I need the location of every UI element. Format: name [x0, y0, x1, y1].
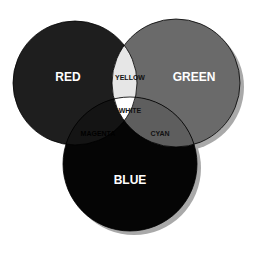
label-blue: BLUE: [114, 173, 147, 187]
label-cyan: CYAN: [150, 130, 169, 137]
label-yellow: YELLOW: [115, 74, 145, 81]
label-magenta: MAGENTA: [81, 130, 116, 137]
label-green: GREEN: [173, 70, 216, 84]
venn-diagram: RED GREEN BLUE YELLOW MAGENTA CYAN WHITE: [0, 0, 262, 255]
label-red: RED: [55, 70, 81, 84]
label-white: WHITE: [119, 107, 142, 114]
